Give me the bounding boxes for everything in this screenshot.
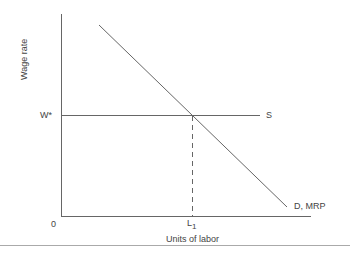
demand-label: D, MRP bbox=[294, 201, 326, 211]
l1-tick-label: L1 bbox=[187, 218, 196, 231]
origin-label: 0 bbox=[51, 219, 56, 229]
w-star-label: W* bbox=[40, 110, 52, 120]
supply-label: S bbox=[266, 110, 272, 120]
l1-sub: 1 bbox=[192, 222, 196, 231]
x-axis-label: Units of labor bbox=[166, 234, 219, 244]
y-axis-label: Wage rate bbox=[19, 39, 29, 80]
